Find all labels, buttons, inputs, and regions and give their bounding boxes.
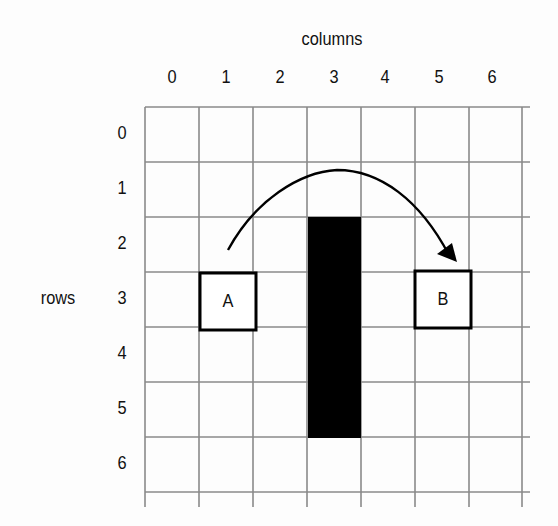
obstacle-wall: [308, 217, 361, 438]
goal-label-b: B: [419, 288, 467, 310]
start-label-a: A: [204, 290, 252, 312]
arrowhead-icon: [437, 243, 457, 262]
grid-diagram: [0, 0, 558, 526]
